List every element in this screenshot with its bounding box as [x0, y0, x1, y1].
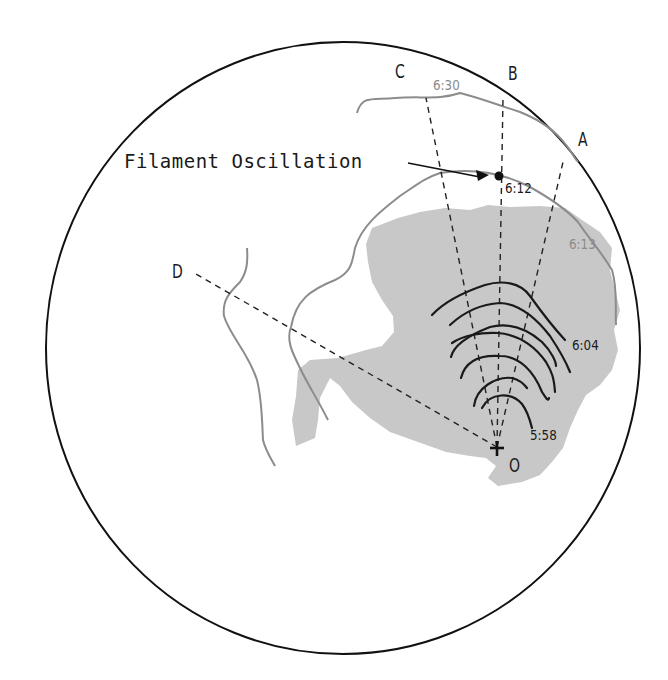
- neutral-line-top: [357, 93, 578, 162]
- label-c: C: [395, 62, 405, 81]
- label-d: D: [172, 262, 183, 281]
- neutral-line-left: [224, 248, 275, 466]
- time-label-612: 6:12: [505, 181, 532, 195]
- time-label-604: 6:04: [572, 338, 599, 352]
- label-o: O: [509, 456, 520, 475]
- time-label-630: 6:30: [433, 78, 460, 92]
- label-b: B: [508, 64, 518, 83]
- solar-disk-diagram: [0, 0, 668, 680]
- time-label-613: 6:13: [569, 237, 596, 251]
- label-a: A: [578, 130, 588, 149]
- time-label-558: 5:58: [530, 428, 557, 442]
- filament-oscillation-label: Filament Oscillation: [124, 152, 363, 171]
- filament-point-marker: [495, 172, 504, 181]
